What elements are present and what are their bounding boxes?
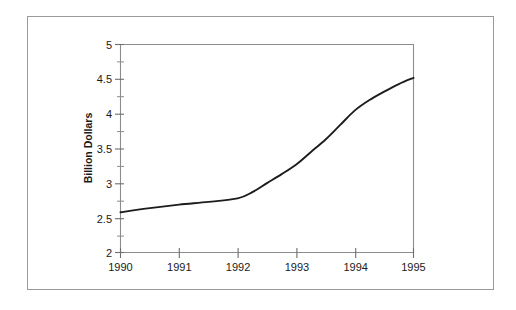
y-tick-label: 5 xyxy=(106,39,112,51)
y-tick-label: 4.5 xyxy=(97,73,112,85)
y-tick-label: 3.5 xyxy=(97,143,112,155)
plot-axes xyxy=(120,44,414,253)
x-tick-label: 1995 xyxy=(401,261,425,273)
line-chart: 5 4.5 4 3.5 3 2.5 2 1990 1991 1992 1993 … xyxy=(0,0,516,310)
x-tick-label: 1990 xyxy=(108,261,132,273)
chart-figure: 5 4.5 4 3.5 3 2.5 2 1990 1991 1992 1993 … xyxy=(0,0,516,310)
x-tick-label: 1992 xyxy=(226,261,250,273)
y-tick-label: 2 xyxy=(106,247,112,259)
y-tick-label: 3 xyxy=(106,178,112,190)
x-tick-label: 1993 xyxy=(285,261,309,273)
y-tick-label: 2.5 xyxy=(97,213,112,225)
x-tick-label: 1991 xyxy=(167,261,191,273)
y-axis-tick-labels: 5 4.5 4 3.5 3 2.5 2 xyxy=(97,39,112,259)
x-tick-label: 1994 xyxy=(343,261,367,273)
y-tick-label: 4 xyxy=(106,108,112,120)
y-axis-title: Billion Dollars xyxy=(82,113,94,184)
x-axis-tick-labels: 1990 1991 1992 1993 1994 1995 xyxy=(108,261,425,273)
y-axis-major-ticks xyxy=(115,45,124,253)
data-series-line xyxy=(121,78,414,213)
